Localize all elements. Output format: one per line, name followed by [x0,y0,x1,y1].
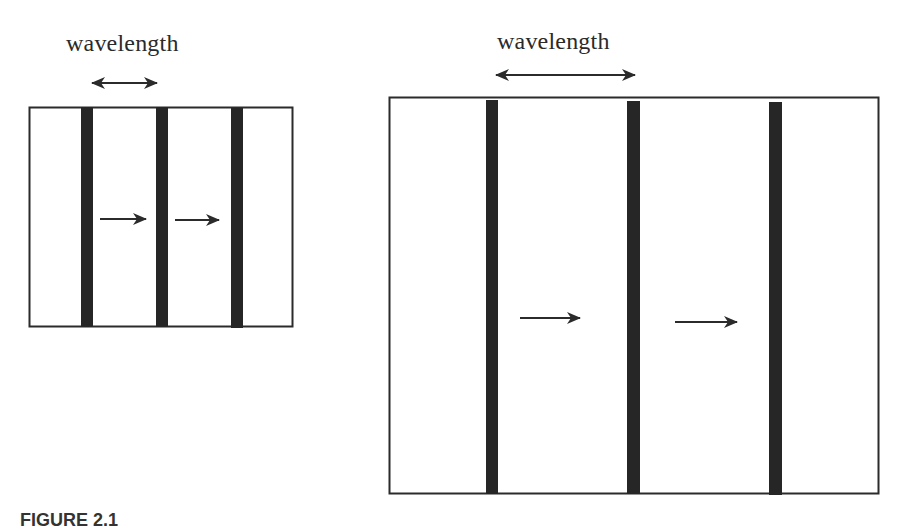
wavefront [156,107,168,327]
long-wavelength-panel [390,75,879,495]
wavefront [627,101,640,494]
wavefront [81,107,93,327]
wavefront [486,100,498,494]
wavefront [769,102,782,495]
figure-caption: FIGURE 2.1 [20,510,118,530]
wavefront [231,108,243,328]
short-wavelength-panel [30,83,293,328]
